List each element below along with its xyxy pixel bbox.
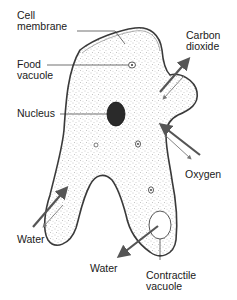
label-food-vacuole: Food vacuole — [17, 59, 53, 81]
label-water-bottom: Water — [90, 263, 118, 274]
label-line: vacuole — [17, 70, 53, 81]
nucleus — [107, 102, 125, 126]
label-oxygen: Oxygen — [185, 169, 221, 180]
label-cell-membrane: Cell membrane — [17, 10, 67, 32]
label-line: dioxide — [186, 41, 220, 52]
cell-membrane — [45, 28, 198, 256]
label-line: vacuole — [146, 281, 196, 292]
small-vacuole — [94, 143, 98, 147]
label-nucleus: Nucleus — [17, 108, 55, 119]
label-carbon-dioxide: Carbon dioxide — [186, 30, 220, 52]
label-contractile-vacuole: Contractile vacuole — [146, 270, 196, 292]
contractile-vacuole — [149, 211, 171, 239]
label-water-left: Water — [17, 234, 45, 245]
label-line: membrane — [17, 21, 67, 32]
